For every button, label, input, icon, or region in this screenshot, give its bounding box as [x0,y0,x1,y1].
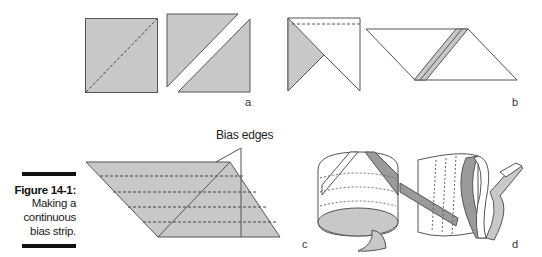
panel-label-c: c [302,238,308,250]
caption-line-2: continuous [4,210,76,224]
caption-rule-bottom [22,244,76,248]
panel-b-parallelogram [366,29,517,80]
panel-label-b: b [512,96,518,108]
panel-a-cut-triangles [167,14,250,92]
bias-edges-annotation: Bias edges [216,128,273,142]
figure-number: Figure 14-1: [4,184,76,196]
figure-caption: Figure 14-1: Making a continuous bias st… [4,172,76,248]
panel-label-d: d [512,238,518,250]
caption-rule-top [22,172,76,176]
panel-label-a: a [245,96,251,108]
caption-line-3: bias strip. [4,224,76,238]
caption-line-1: Making a [4,196,76,210]
panel-d-tube [318,152,398,251]
panel-c-marked-parallelogram [86,148,280,237]
panel-d-strip-cutting [400,154,523,240]
panel-a-square [86,19,158,93]
panel-b-folded [288,18,360,91]
